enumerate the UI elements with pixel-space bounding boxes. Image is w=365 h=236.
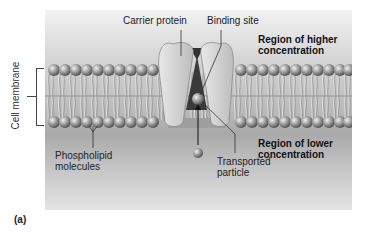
carrier-protein	[159, 42, 234, 158]
diagram-panel: Carrier protein Binding site Region of h…	[45, 10, 352, 210]
binding-site-label: Binding site	[207, 15, 259, 26]
transported-particle-sphere	[193, 148, 203, 158]
cell-membrane-label: Cell membrane	[10, 61, 21, 131]
membrane-bracket-tick	[27, 96, 36, 97]
carrier-protein-label: Carrier protein	[123, 15, 187, 26]
region-higher-label-1: Region of higher	[258, 34, 337, 45]
cell-membrane-label-wrap: Cell membrane	[2, 66, 16, 126]
transported-particle-label-2: particle	[217, 167, 249, 178]
membrane-bracket	[36, 68, 44, 126]
region-higher-label-2: concentration	[258, 45, 324, 56]
region-lower-label-1: Region of lower	[258, 138, 333, 149]
bound-particle	[192, 93, 204, 105]
phospholipid-label-2: molecules	[55, 161, 100, 172]
phospholipid-label-1: Phospholipid	[55, 150, 112, 161]
panel-label: (a)	[14, 214, 26, 225]
transported-particle-label-1: Transported	[217, 156, 271, 167]
